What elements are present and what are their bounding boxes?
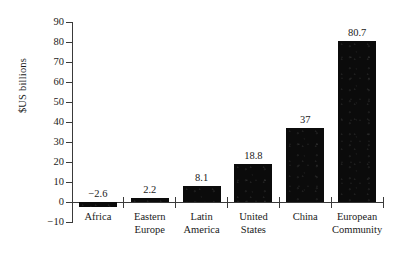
x-tick-mark: [175, 197, 176, 208]
y-tick-label-wrap: 90: [36, 17, 64, 27]
x-tick-mark: [227, 197, 228, 208]
y-tick-mark: [66, 182, 73, 183]
bar-value-label: 2.2: [120, 184, 180, 195]
y-tick-mark: [66, 162, 73, 163]
y-tick-mark: [66, 22, 73, 23]
y-tick-label: 10: [38, 177, 64, 187]
x-category-label-line: Eastern: [124, 210, 176, 223]
x-category-label: UnitedStates: [228, 210, 280, 236]
bar-value-label: 8.1: [172, 172, 232, 183]
x-tick-mark: [331, 197, 332, 208]
x-category-label-line: Latin: [176, 210, 228, 223]
y-tick-label: 50: [38, 97, 64, 107]
y-tick-label-wrap: 70: [36, 57, 64, 67]
x-category-label: EuropeanCommunity: [331, 210, 383, 236]
bar: [131, 198, 169, 202]
x-tick-mark: [279, 197, 280, 208]
x-tick-mark: [383, 197, 384, 208]
y-tick-label-wrap: −10: [36, 217, 64, 227]
x-category-label: EasternEurope: [124, 210, 176, 236]
y-tick-mark: [66, 122, 73, 123]
bar: [79, 202, 117, 207]
x-category-label-line: America: [176, 223, 228, 236]
y-tick-label-wrap: 80: [36, 37, 64, 47]
y-tick-label: 0: [38, 197, 64, 207]
y-axis-title: $US billions: [17, 26, 28, 146]
y-tick-mark: [66, 142, 73, 143]
y-tick-mark: [66, 82, 73, 83]
bar-chart: $US billions 9080706050403020100−10 −2.6…: [0, 0, 401, 263]
y-tick-mark: [66, 62, 73, 63]
bar: [183, 186, 221, 202]
bar: [234, 164, 272, 202]
y-tick-label-wrap: 60: [36, 77, 64, 87]
x-category-label-line: States: [228, 223, 280, 236]
y-tick-mark: [66, 42, 73, 43]
y-tick-label: 40: [38, 117, 64, 127]
y-tick-label-wrap: 20: [36, 157, 64, 167]
y-tick-mark: [66, 202, 73, 203]
y-tick-label-wrap: 40: [36, 117, 64, 127]
x-category-label-line: China: [279, 210, 331, 223]
bar-value-label: 80.7: [327, 27, 387, 38]
y-tick-label: 30: [38, 137, 64, 147]
y-tick-label: 80: [38, 37, 64, 47]
y-tick-label-wrap: 10: [36, 177, 64, 187]
y-tick-label-wrap: 30: [36, 137, 64, 147]
y-tick-label: 20: [38, 157, 64, 167]
y-tick-mark: [66, 102, 73, 103]
bar-value-label: 18.8: [223, 150, 283, 161]
y-tick-label-wrap: 50: [36, 97, 64, 107]
x-category-label: LatinAmerica: [176, 210, 228, 236]
x-category-label-line: European: [331, 210, 383, 223]
bar: [338, 41, 376, 202]
x-category-label-line: Europe: [124, 223, 176, 236]
y-tick-label: −10: [38, 217, 64, 227]
x-category-label: Africa: [72, 210, 124, 223]
x-category-label-line: Community: [331, 223, 383, 236]
y-tick-label-wrap: 0: [36, 197, 64, 207]
y-tick-label: 90: [38, 17, 64, 27]
bar: [286, 128, 324, 202]
x-category-label: China: [279, 210, 331, 223]
y-tick-label: 60: [38, 77, 64, 87]
x-category-label-line: United: [228, 210, 280, 223]
bar-value-label: 37: [275, 114, 335, 125]
x-category-label-line: Africa: [72, 210, 124, 223]
y-tick-label: 70: [38, 57, 64, 67]
